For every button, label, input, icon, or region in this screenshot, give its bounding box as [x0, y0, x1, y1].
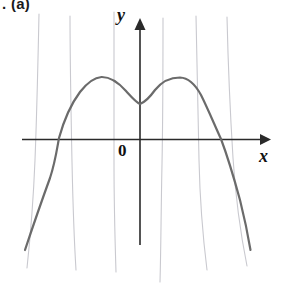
figure-caption: . (a) — [2, 0, 30, 12]
graph-canvas — [0, 0, 285, 289]
x-axis-arrowhead — [260, 134, 271, 145]
origin-label: 0 — [118, 141, 127, 161]
guideline-1 — [27, 14, 39, 268]
function-curve-group — [25, 77, 251, 250]
function-curve — [25, 77, 251, 250]
figure-container: . (a) y x 0 — [0, 0, 285, 289]
construction-guidelines — [27, 12, 247, 282]
guideline-2 — [70, 16, 76, 270]
y-axis-arrowhead — [135, 18, 146, 30]
guideline-3 — [114, 12, 116, 272]
y-axis-label: y — [117, 5, 125, 26]
x-axis-label: x — [259, 146, 268, 167]
guideline-4 — [160, 18, 163, 282]
guideline-6 — [227, 17, 247, 266]
axes — [22, 18, 271, 245]
guideline-5 — [196, 16, 207, 270]
